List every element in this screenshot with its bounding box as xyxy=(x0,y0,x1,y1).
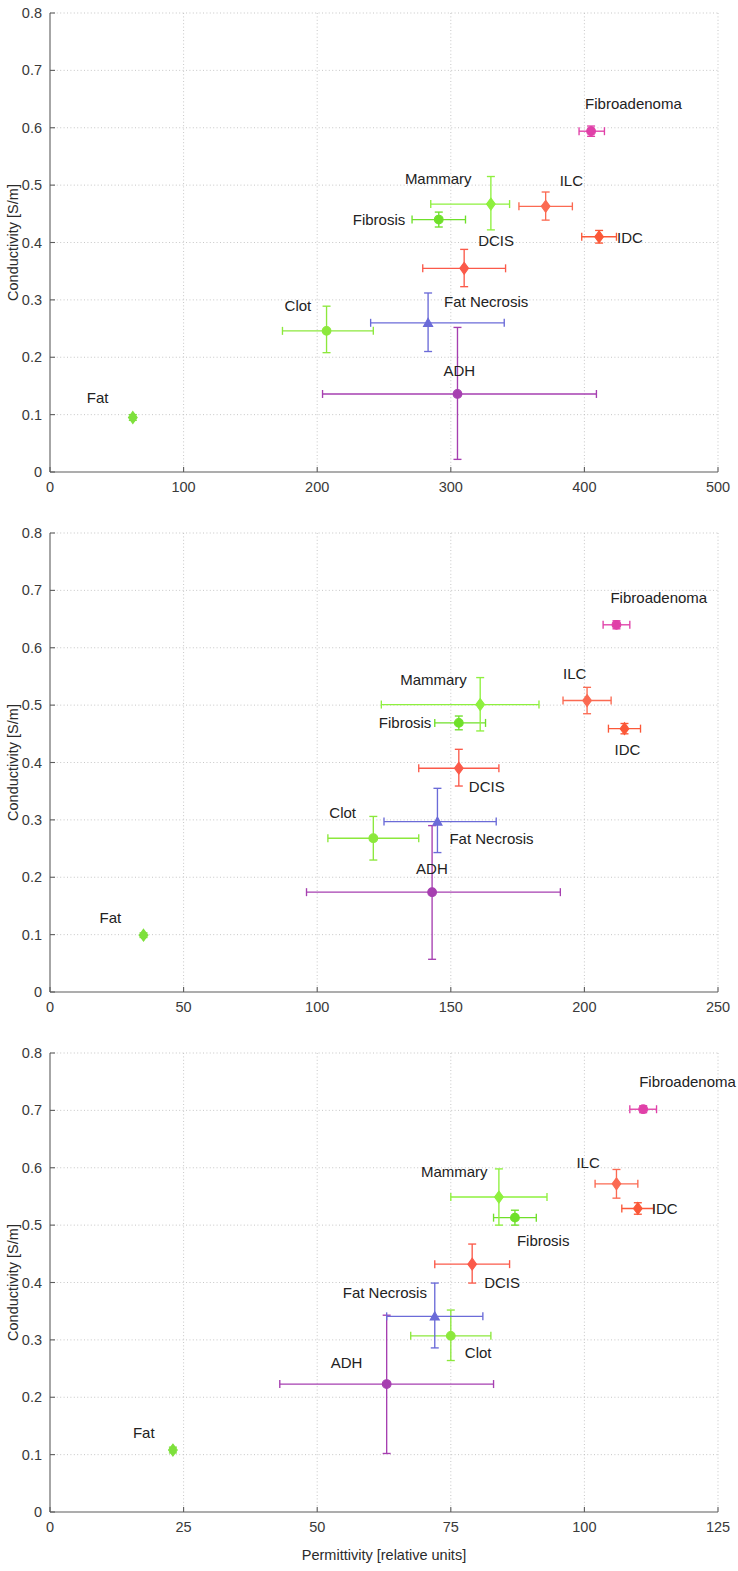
y-tick-label: 0.1 xyxy=(22,1447,42,1463)
y-tick-label: 0.8 xyxy=(22,1045,42,1061)
marker-diamond[interactable] xyxy=(634,1203,643,1215)
point-label-adh: ADH xyxy=(416,860,448,877)
data-point-fibrosis[interactable]: Fibrosis xyxy=(379,714,486,731)
panel-1-canvas: 00.10.20.30.40.50.60.70.8010020030040050… xyxy=(0,0,738,520)
marker-diamond[interactable] xyxy=(541,200,550,212)
data-point-clot[interactable]: Clot xyxy=(282,297,373,353)
point-label-mammary: Mammary xyxy=(405,170,472,187)
marker-circle[interactable] xyxy=(322,327,331,336)
data-point-fat-necrosis[interactable]: Fat Necrosis xyxy=(371,293,529,352)
data-point-fat[interactable]: Fat xyxy=(100,909,148,941)
data-point-adh[interactable]: ADH xyxy=(323,327,597,459)
marker-circle[interactable] xyxy=(446,1332,455,1341)
data-point-fat[interactable]: Fat xyxy=(133,1424,177,1456)
data-points: FatClotADHFat NecrosisDCISFibrosisMammar… xyxy=(133,1073,737,1456)
data-point-fibroadenoma[interactable]: Fibroadenoma xyxy=(630,1073,737,1113)
data-point-mammary[interactable]: Mammary xyxy=(421,1163,547,1225)
data-point-clot[interactable]: Clot xyxy=(411,1310,493,1361)
point-label-mammary: Mammary xyxy=(421,1163,488,1180)
point-label-fibrosis: Fibrosis xyxy=(517,1232,570,1249)
marker-diamond[interactable] xyxy=(612,1178,621,1190)
y-tick-label: 0.3 xyxy=(22,292,42,308)
x-tick-label: 25 xyxy=(176,1519,192,1535)
data-point-idc[interactable]: IDC xyxy=(608,723,640,758)
data-point-fat-necrosis[interactable]: Fat Necrosis xyxy=(384,788,534,852)
x-tick-label: 100 xyxy=(171,479,195,495)
data-point-fibroadenoma[interactable]: Fibroadenoma xyxy=(579,95,682,136)
marker-diamond[interactable] xyxy=(468,1258,477,1270)
marker-circle[interactable] xyxy=(369,834,378,843)
data-point-fat-necrosis[interactable]: Fat Necrosis xyxy=(343,1283,483,1348)
marker-diamond[interactable] xyxy=(128,412,137,424)
marker-diamond[interactable] xyxy=(454,762,463,774)
y-tick-label: 0 xyxy=(34,464,42,480)
data-point-fibroadenoma[interactable]: Fibroadenoma xyxy=(603,589,708,629)
x-tick-label: 50 xyxy=(176,999,192,1015)
data-point-dcis[interactable]: DCIS xyxy=(419,749,505,795)
marker-circle[interactable] xyxy=(454,719,463,728)
marker-diamond[interactable] xyxy=(139,929,148,941)
marker-circle[interactable] xyxy=(587,127,596,136)
data-point-fibrosis[interactable]: Fibrosis xyxy=(494,1210,570,1248)
x-tick-label: 0 xyxy=(46,1519,54,1535)
y-tick-label: 0.5 xyxy=(22,177,42,193)
panel-2-canvas: 00.10.20.30.40.50.60.70.8050100150200250… xyxy=(0,520,738,1040)
point-label-fibrosis: Fibrosis xyxy=(353,211,406,228)
point-label-adh: ADH xyxy=(443,362,475,379)
marker-diamond[interactable] xyxy=(620,723,629,735)
y-tick-label: 0.2 xyxy=(22,869,42,885)
data-points: FatClotADHFat NecrosisDCISFibrosisMammar… xyxy=(100,589,708,959)
marker-circle[interactable] xyxy=(428,888,437,897)
marker-circle[interactable] xyxy=(453,390,462,399)
y-axis-title: Conductivity [S/m] xyxy=(5,704,21,821)
x-tick-label: 400 xyxy=(572,479,596,495)
marker-circle[interactable] xyxy=(639,1105,648,1114)
y-tick-label: 0.6 xyxy=(22,640,42,656)
marker-circle[interactable] xyxy=(511,1213,520,1222)
data-point-ilc[interactable]: ILC xyxy=(576,1154,637,1198)
y-axis-title: Conductivity [S/m] xyxy=(5,184,21,301)
point-label-clot: Clot xyxy=(329,804,357,821)
marker-circle[interactable] xyxy=(612,620,621,629)
x-tick-label: 300 xyxy=(439,479,463,495)
y-tick-label: 0.4 xyxy=(22,235,42,251)
y-tick-label: 0.7 xyxy=(22,62,42,78)
x-tick-label: 100 xyxy=(572,1519,596,1535)
y-tick-label: 0.4 xyxy=(22,755,42,771)
x-tick-label: 150 xyxy=(439,999,463,1015)
y-tick-label: 0.5 xyxy=(22,697,42,713)
data-point-ilc[interactable]: ILC xyxy=(563,665,611,714)
data-point-ilc[interactable]: ILC xyxy=(519,172,583,220)
data-point-fat[interactable]: Fat xyxy=(87,389,137,423)
y-tick-label: 0.6 xyxy=(22,120,42,136)
data-point-mammary[interactable]: Mammary xyxy=(405,170,510,230)
marker-diamond[interactable] xyxy=(460,262,469,274)
y-tick-label: 0.3 xyxy=(22,812,42,828)
x-tick-label: 100 xyxy=(305,999,329,1015)
point-label-ilc: ILC xyxy=(576,1154,600,1171)
data-point-fibrosis[interactable]: Fibrosis xyxy=(353,211,466,228)
y-tick-label: 0.1 xyxy=(22,927,42,943)
point-label-fat-necrosis: Fat Necrosis xyxy=(444,293,528,310)
marker-diamond[interactable] xyxy=(487,198,496,210)
marker-diamond[interactable] xyxy=(476,699,485,711)
point-label-fat-necrosis: Fat Necrosis xyxy=(449,830,533,847)
marker-diamond[interactable] xyxy=(169,1444,178,1456)
marker-circle[interactable] xyxy=(382,1380,391,1389)
data-point-dcis[interactable]: DCIS xyxy=(435,1244,520,1291)
point-label-ilc: ILC xyxy=(560,172,584,189)
marker-diamond[interactable] xyxy=(495,1191,504,1203)
data-point-idc[interactable]: IDC xyxy=(582,229,643,246)
y-tick-label: 0.7 xyxy=(22,582,42,598)
y-tick-label: 0.7 xyxy=(22,1102,42,1118)
x-tick-label: 0 xyxy=(46,479,54,495)
marker-diamond[interactable] xyxy=(595,231,604,243)
y-tick-label: 0.8 xyxy=(22,5,42,21)
point-label-ilc: ILC xyxy=(563,665,587,682)
y-tick-label: 0.4 xyxy=(22,1275,42,1291)
data-point-clot[interactable]: Clot xyxy=(328,804,419,860)
data-point-idc[interactable]: IDC xyxy=(622,1200,678,1217)
marker-circle[interactable] xyxy=(434,215,443,224)
data-point-dcis[interactable]: DCIS xyxy=(423,232,514,286)
y-tick-label: 0.3 xyxy=(22,1332,42,1348)
